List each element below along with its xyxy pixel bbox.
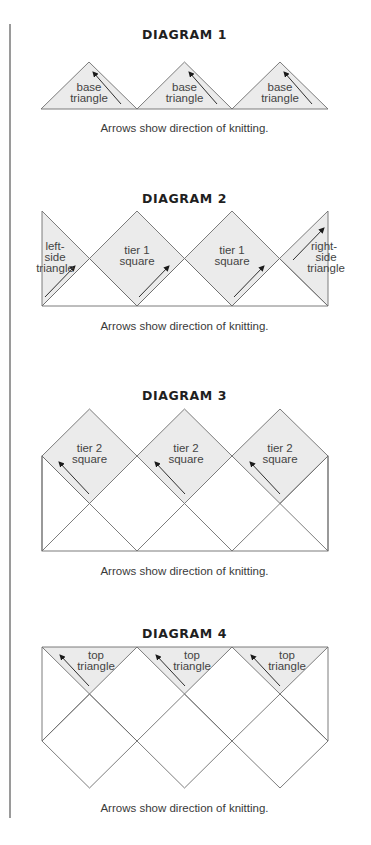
diagram-3	[42, 409, 328, 551]
piece-label: triangle	[166, 92, 204, 104]
piece-label: triangle	[173, 660, 211, 672]
diagram-2	[42, 211, 328, 306]
bottom-diamonds	[42, 741, 328, 788]
piece-label: square	[168, 453, 203, 465]
piece-label: triangle	[77, 660, 115, 672]
diagrams-canvas: base triangle base triangle base triangl…	[0, 0, 371, 845]
piece-label: square	[214, 255, 249, 267]
piece-label: square	[119, 255, 154, 267]
piece-label: triangle	[268, 660, 306, 672]
piece-label: square	[262, 453, 297, 465]
piece-label: triangle	[307, 262, 345, 274]
piece-label: square	[72, 453, 107, 465]
piece-label: triangle	[261, 92, 299, 104]
piece-label: triangle	[36, 262, 74, 274]
piece-label: triangle	[70, 92, 108, 104]
